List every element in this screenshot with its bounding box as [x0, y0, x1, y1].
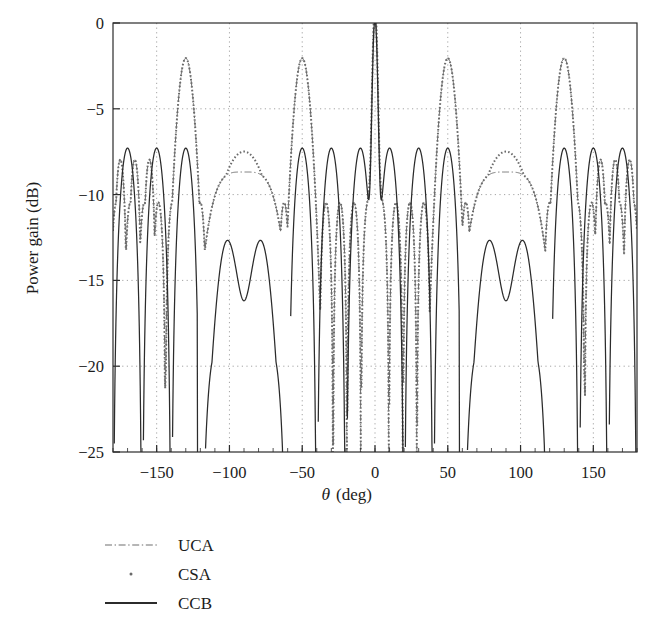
- x-axis-title-unit: (deg): [336, 485, 372, 504]
- x-tick-label: 50: [440, 463, 457, 482]
- legend-label-ccb: CCB: [178, 594, 212, 613]
- x-axis-title: θ (deg): [321, 484, 371, 504]
- x-tick-label: −100: [212, 463, 246, 482]
- legend-marker-csa: [130, 573, 133, 576]
- legend-label-csa: CSA: [178, 565, 212, 584]
- y-tick-label: −20: [78, 357, 104, 376]
- y-axis-title-text: Power gain (dB): [23, 182, 42, 294]
- y-tick-label: −25: [78, 443, 104, 462]
- y-tick-label: −10: [78, 186, 104, 205]
- x-tick-label: −50: [289, 463, 315, 482]
- beampattern-figure: 0−5−10−15−20−25 −150−100−50050100150 Pow…: [0, 0, 659, 630]
- x-tick-label: 0: [371, 463, 379, 482]
- y-tick-label: 0: [96, 14, 104, 33]
- legend-label-uca: UCA: [178, 536, 215, 555]
- x-tick-label: 100: [508, 463, 533, 482]
- figure-background: [0, 0, 659, 630]
- y-tick-label: −15: [78, 271, 104, 290]
- x-axis-title-symbol: θ: [321, 484, 330, 504]
- y-axis-title: Power gain (dB): [23, 182, 42, 294]
- y-tick-label: −5: [86, 100, 104, 119]
- x-tick-label: −150: [140, 463, 174, 482]
- x-tick-label: 150: [581, 463, 606, 482]
